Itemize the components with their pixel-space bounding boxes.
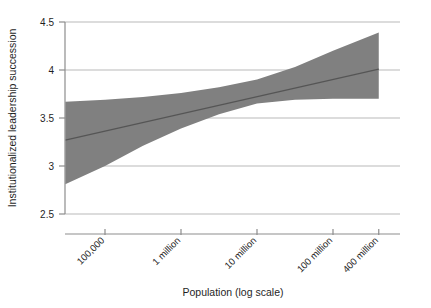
y-axis-ticks [59, 22, 65, 214]
x-tick-label-2: 10 million [222, 235, 258, 271]
x-tick-label-3: 100 million [295, 235, 335, 275]
y-axis-tick-labels: 4.5 4 3.5 3 2.5 [40, 17, 54, 220]
regression-plot-figure: 4.5 4 3.5 3 2.5 100,000 1 million 10 mil… [0, 0, 431, 308]
x-axis-title: Population (log scale) [183, 286, 284, 298]
y-tick-label-4: 2.5 [40, 209, 54, 220]
x-tick-label-1: 1 million [150, 235, 182, 267]
y-tick-label-2: 3.5 [40, 113, 54, 124]
chart-canvas: 4.5 4 3.5 3 2.5 100,000 1 million 10 mil… [0, 0, 431, 308]
y-tick-label-3: 3 [48, 161, 54, 172]
x-axis-tick-labels: 100,000 1 million 10 million 100 million… [74, 235, 380, 275]
y-tick-label-0: 4.5 [40, 17, 54, 28]
x-tick-label-4: 400 million [340, 235, 380, 275]
y-axis-title: Institutionalized leadership succession [6, 29, 18, 208]
y-tick-label-1: 4 [48, 65, 54, 76]
x-tick-label-0: 100,000 [74, 235, 106, 267]
